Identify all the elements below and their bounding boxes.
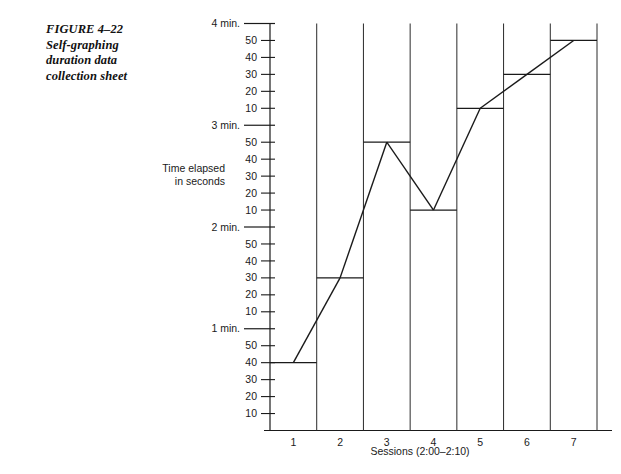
y-axis-tick-label: 10: [245, 305, 257, 317]
y-axis-tick-label: 30: [245, 373, 257, 385]
y-axis-title-line-1: Time elapsed: [162, 162, 225, 174]
y-axis-tick-label: 50: [245, 339, 257, 351]
y-axis-minute-label: 4 min.: [211, 17, 240, 29]
y-axis-tick-label: 10: [245, 204, 257, 216]
y-axis-tick-label: 40: [245, 51, 257, 63]
y-axis-tick-label: 30: [245, 68, 257, 80]
y-axis-tick-label: 40: [245, 153, 257, 165]
y-axis-tick-label: 50: [245, 136, 257, 148]
session-label-6: 6: [524, 436, 530, 448]
y-axis-ticks: 4 min.50403020103 min.50403020102 min.50…: [211, 17, 275, 419]
y-axis-minute-label: 2 min.: [211, 221, 240, 233]
session-label-1: 1: [290, 436, 296, 448]
figure-container: FIGURE 4–22 Self-graphing duration data …: [0, 0, 621, 474]
y-axis-title-line-2: in seconds: [175, 175, 225, 187]
session-label-7: 7: [571, 436, 577, 448]
x-axis-title: Sessions (2:00–2:10): [370, 445, 469, 457]
y-axis-tick-label: 40: [245, 356, 257, 368]
y-axis-tick-label: 10: [245, 102, 257, 114]
y-axis-tick-label: 30: [245, 271, 257, 283]
y-axis-minute-label: 3 min.: [211, 119, 240, 131]
y-axis-tick-label: 40: [245, 255, 257, 267]
y-axis-tick-label: 50: [245, 34, 257, 46]
y-axis-tick-label: 20: [245, 288, 257, 300]
y-axis-tick-label: 20: [245, 85, 257, 97]
y-axis-tick-label: 30: [245, 170, 257, 182]
y-axis-tick-label: 20: [245, 390, 257, 402]
session-column-dividers: [317, 24, 597, 431]
y-axis-tick-label: 20: [245, 187, 257, 199]
session-label-5: 5: [477, 436, 483, 448]
data-series: [270, 40, 597, 362]
y-axis-tick-label: 10: [245, 407, 257, 419]
y-axis-minute-label: 1 min.: [211, 322, 240, 334]
duration-chart: 4 min.50403020103 min.50403020102 min.50…: [0, 0, 621, 474]
y-axis-tick-label: 50: [245, 238, 257, 250]
session-label-2: 2: [337, 436, 343, 448]
